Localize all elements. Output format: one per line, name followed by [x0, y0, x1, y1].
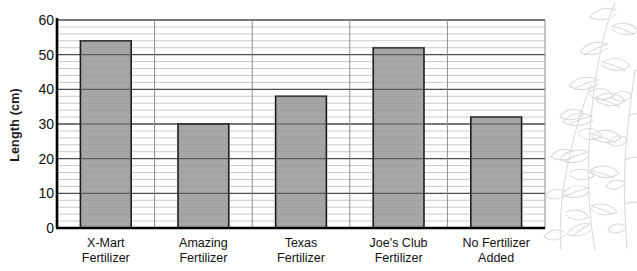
x-axis-category-label: Joe's ClubFertilizer [370, 236, 428, 266]
x-axis-category-label-line: No Fertilizer [463, 236, 530, 251]
x-axis-category-label-line: X-Mart [82, 236, 130, 251]
x-axis-category-labels: X-MartFertilizerAmazingFertilizerTexasFe… [0, 0, 637, 271]
x-axis-category-label-line: Texas [277, 236, 325, 251]
x-axis-category-label: X-MartFertilizer [82, 236, 130, 266]
x-axis-category-label-line: Amazing [179, 236, 228, 251]
x-axis-category-label-line: Fertilizer [370, 251, 428, 266]
x-axis-category-label-line: Fertilizer [179, 251, 228, 266]
bar-chart-figure: Length (cm) 0102030405060 [0, 0, 637, 271]
x-axis-category-label: TexasFertilizer [277, 236, 325, 266]
x-axis-category-label-line: Added [463, 251, 530, 266]
x-axis-category-label: No FertilizerAdded [463, 236, 530, 266]
x-axis-category-label: AmazingFertilizer [179, 236, 228, 266]
x-axis-category-label-line: Fertilizer [82, 251, 130, 266]
x-axis-category-label-line: Fertilizer [277, 251, 325, 266]
x-axis-category-label-line: Joe's Club [370, 236, 428, 251]
